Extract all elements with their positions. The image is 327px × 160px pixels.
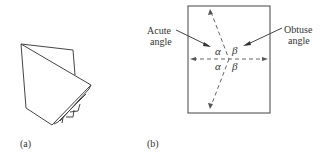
folded-paper-figure bbox=[21, 44, 91, 125]
beta-top: β bbox=[232, 44, 237, 56]
arrowhead-up-icon bbox=[208, 9, 213, 15]
alpha-top: α bbox=[215, 45, 221, 57]
obtuse-label-line2: angle bbox=[288, 35, 310, 46]
obtuse-pointer bbox=[246, 28, 282, 45]
arrowhead-left-icon bbox=[190, 57, 196, 61]
beta-bottom: β bbox=[232, 60, 237, 72]
obtuse-pointer-head-icon bbox=[243, 41, 251, 46]
arrowhead-down-icon bbox=[208, 103, 213, 109]
alpha-bottom: α bbox=[215, 60, 221, 72]
obtuse-label-line1: Obtuse bbox=[284, 24, 312, 35]
acute-label-line2: angle bbox=[150, 36, 172, 47]
caption-a: (a) bbox=[20, 138, 31, 149]
acute-pointer-head-icon bbox=[203, 42, 211, 47]
caption-b: (b) bbox=[147, 138, 159, 149]
angle-figure bbox=[176, 6, 282, 113]
arrowhead-right-icon bbox=[262, 57, 268, 61]
diagram-canvas bbox=[0, 0, 327, 160]
acute-label-line1: Acute bbox=[147, 25, 171, 36]
